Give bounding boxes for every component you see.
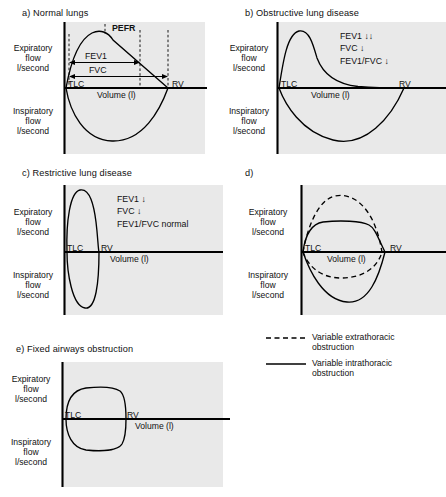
panel-c-inspiratory-line2: flow: [4, 280, 62, 290]
panel-e-expiratory-line3: l/second: [2, 394, 60, 404]
panel-c-inspiratory-line1: Inspiratory: [4, 270, 62, 280]
panel-c-annotation-fev1: FEV1 ↓: [117, 193, 188, 205]
panel-a-annotation-fev1: FEV1: [83, 50, 109, 62]
panel-d-expiratory-label: Expiratory flow l/second: [239, 207, 297, 238]
panel-a-annotation-fvc: FVC: [87, 64, 109, 76]
panel-d-inspiratory-line3: l/second: [239, 290, 297, 300]
panel-c-annotation-fvc: FVC ↓: [117, 205, 188, 217]
panel-e-plot: [0, 340, 230, 497]
panel-b-marker-tlc: TLC: [281, 79, 297, 89]
panel-c-x-axis-label: Volume (l): [110, 254, 149, 264]
panel-e-inspiratory-line1: Inspiratory: [2, 437, 60, 447]
panel-b-expiratory-line3: l/second: [223, 63, 275, 73]
panel-b-inspiratory-label: Inspiratory flow l/second: [223, 106, 275, 137]
panel-d-inspiratory-label: Inspiratory flow l/second: [239, 270, 297, 301]
panel-c-expiratory-label: Expiratory flow l/second: [4, 207, 62, 238]
panel-a-expiratory-line3: l/second: [4, 63, 62, 73]
panel-a-inspiratory-line3: l/second: [4, 126, 62, 136]
legend-intrathoracic-line1: Variable intrathoracic: [312, 358, 392, 368]
panel-a-inspiratory-line1: Inspiratory: [4, 106, 62, 116]
panel-a-inspiratory-line2: flow: [4, 116, 62, 126]
panel-b-inspiratory-line1: Inspiratory: [223, 106, 275, 116]
panel-b-annotation-ratio: FEV1/FVC ↓: [340, 55, 389, 67]
panel-e-fixed-airways-obstruction: e) Fixed airways obstruction Expiratory …: [0, 340, 230, 497]
panel-b-inspiratory-line3: l/second: [223, 126, 275, 136]
panel-d-inspiratory-line1: Inspiratory: [239, 270, 297, 280]
panel-e-marker-rv: RV: [127, 410, 139, 420]
panel-c-marker-rv: RV: [101, 243, 113, 253]
legend-item-extrathoracic: Variable extrathoracic obstruction: [312, 332, 394, 353]
legend-extrathoracic-line2: obstruction: [312, 342, 394, 352]
legend-item-intrathoracic: Variable intrathoracic obstruction: [312, 358, 392, 379]
panel-a-marker-rv: RV: [172, 79, 184, 89]
panel-c-inspiratory-line3: l/second: [4, 290, 62, 300]
panel-a-expiratory-label: Expiratory flow l/second: [4, 43, 62, 74]
panel-e-expiratory-line2: flow: [2, 384, 60, 394]
panel-c-expiratory-line2: flow: [4, 217, 62, 227]
panel-c-annotation-ratio: FEV1/FVC normal: [117, 218, 188, 230]
panel-e-inspiratory-line2: flow: [2, 447, 60, 457]
panel-c-expiratory-line3: l/second: [4, 227, 62, 237]
panel-d-expiratory-line2: flow: [239, 217, 297, 227]
flow-volume-loop-figure: a) Normal lungs Exp: [0, 0, 446, 497]
panel-b-annotations: FEV1 ↓↓ FVC ↓ FEV1/FVC ↓: [340, 30, 389, 67]
panel-d-variable-obstruction: d) Expiratory flow l/second Inspiratory …: [223, 160, 446, 320]
panel-b-annotation-fvc: FVC ↓: [340, 42, 389, 54]
panel-b-annotation-fev1: FEV1 ↓↓: [340, 30, 389, 42]
panel-b-expiratory-line2: flow: [223, 53, 275, 63]
panel-d-x-axis-label: Volume (l): [327, 254, 366, 264]
legend-extrathoracic-line1: Variable extrathoracic: [312, 332, 394, 342]
panel-b-expiratory-line1: Expiratory: [223, 43, 275, 53]
panel-d-expiratory-line3: l/second: [239, 227, 297, 237]
panel-a-annotation-pefr: PEFR: [112, 22, 135, 34]
panel-c-inspiratory-label: Inspiratory flow l/second: [4, 270, 62, 301]
panel-b-obstructive-lung-disease: b) Obstructive lung disease Expiratory f…: [223, 0, 446, 160]
panel-a-inspiratory-label: Inspiratory flow l/second: [4, 106, 62, 137]
panel-e-inspiratory-line3: l/second: [2, 457, 60, 467]
panel-a-marker-tlc: TLC: [68, 79, 84, 89]
panel-d-marker-tlc: TLC: [305, 243, 321, 253]
panel-e-marker-tlc: TLC: [65, 410, 81, 420]
panel-a-x-axis-label: Volume (l): [97, 90, 136, 100]
panel-e-x-axis-label: Volume (l): [135, 421, 174, 431]
panel-d-inspiratory-line2: flow: [239, 280, 297, 290]
panel-a-expiratory-line1: Expiratory: [4, 43, 62, 53]
panel-a-normal-lungs: a) Normal lungs Exp: [0, 0, 223, 160]
legend-intrathoracic-line2: obstruction: [312, 368, 392, 378]
panel-b-marker-rv: RV: [399, 79, 411, 89]
panel-e-inspiratory-label: Inspiratory flow l/second: [2, 437, 60, 468]
panel-a-expiratory-line2: flow: [4, 53, 62, 63]
legend: Variable extrathoracic obstruction Varia…: [258, 330, 446, 390]
panel-e-expiratory-label: Expiratory flow l/second: [2, 374, 60, 405]
panel-b-inspiratory-line2: flow: [223, 116, 275, 126]
panel-e-expiratory-line1: Expiratory: [2, 374, 60, 384]
panel-c-restrictive-lung-disease: c) Restrictive lung disease Expiratory f…: [0, 160, 223, 320]
panel-b-expiratory-label: Expiratory flow l/second: [223, 43, 275, 74]
panel-c-expiratory-line1: Expiratory: [4, 207, 62, 217]
panel-d-expiratory-line1: Expiratory: [239, 207, 297, 217]
panel-b-x-axis-label: Volume (l): [311, 90, 350, 100]
panel-c-annotations: FEV1 ↓ FVC ↓ FEV1/FVC normal: [117, 193, 188, 230]
panel-c-marker-tlc: TLC: [67, 243, 83, 253]
panel-d-marker-rv: RV: [390, 243, 402, 253]
